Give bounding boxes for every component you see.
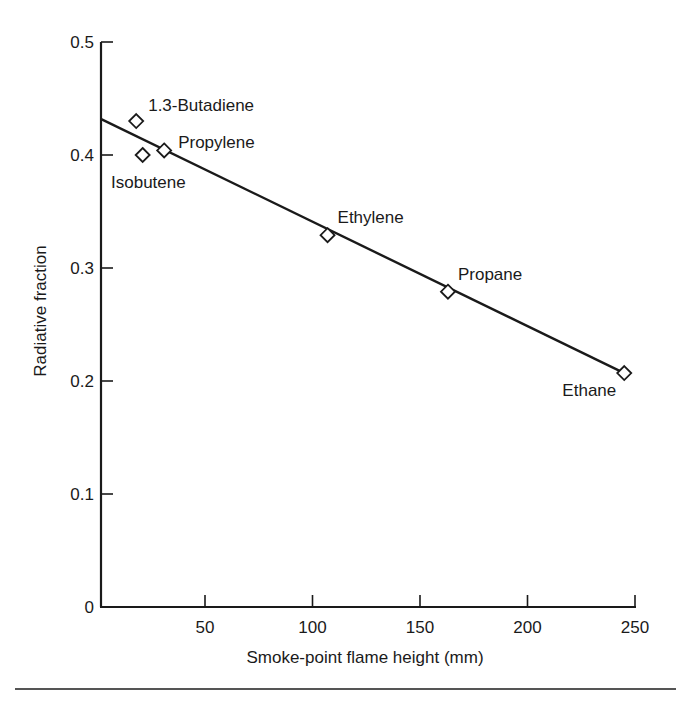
point-label: Isobutene <box>111 173 186 192</box>
radiative-fraction-chart: 00.10.20.30.40.5 50100150200250 Smoke-po… <box>0 0 676 701</box>
x-tick-label: 100 <box>298 618 326 637</box>
fit-line-path <box>101 119 625 373</box>
point-label: Ethylene <box>338 208 404 227</box>
x-tick-label: 150 <box>406 618 434 637</box>
diamond-marker-icon <box>136 148 150 162</box>
x-tick-label: 50 <box>196 618 215 637</box>
point-label: 1.3-Butadiene <box>148 96 254 115</box>
y-tick-label: 0.4 <box>70 146 94 165</box>
x-ticks: 50100150200250 <box>196 595 650 637</box>
x-axis-title: Smoke-point flame height (mm) <box>246 648 483 667</box>
point-labels: 1.3-ButadieneIsobutenePropyleneEthyleneP… <box>111 96 616 400</box>
x-tick-label: 200 <box>513 618 541 637</box>
y-tick-label: 0.3 <box>70 259 94 278</box>
y-tick-label: 0 <box>85 598 94 617</box>
y-axis-title: Radiative fraction <box>31 245 50 376</box>
point-label: Propylene <box>178 133 255 152</box>
bottom-rule-divider <box>15 688 676 690</box>
diamond-marker-icon <box>441 285 455 299</box>
fit-line <box>101 119 625 373</box>
y-tick-label: 0.5 <box>70 33 94 52</box>
point-label: Ethane <box>562 381 616 400</box>
x-tick-label: 250 <box>621 618 649 637</box>
y-tick-label: 0.1 <box>70 485 94 504</box>
point-label: Propane <box>458 265 522 284</box>
y-tick-label: 0.2 <box>70 372 94 391</box>
axes: 00.10.20.30.40.5 50100150200250 <box>70 33 649 637</box>
diamond-marker-icon <box>157 143 171 157</box>
diamond-marker-icon <box>129 114 143 128</box>
diamond-marker-icon <box>617 366 631 380</box>
